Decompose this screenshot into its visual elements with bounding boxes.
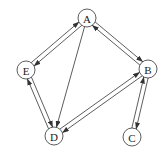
arrow-line <box>31 77 52 127</box>
edge-B-to-A <box>92 25 140 65</box>
edges-layer <box>27 22 148 133</box>
arrow-line <box>92 25 140 65</box>
node-label: E <box>23 65 30 77</box>
edge-B-to-D <box>62 76 142 133</box>
nodes-layer: ABCDE <box>17 9 157 146</box>
node-label: D <box>50 131 58 143</box>
edge-A-to-E <box>34 25 82 66</box>
directed-graph-diagram: ABCDE <box>0 0 166 156</box>
arrow-line <box>95 22 143 62</box>
arrow-line <box>60 72 140 129</box>
arrow-line <box>56 27 84 128</box>
arrow-line <box>34 25 82 66</box>
edge-D-to-B <box>60 72 140 129</box>
arrow-line <box>62 76 142 133</box>
node-label: B <box>144 64 151 76</box>
edge-E-to-D <box>31 77 52 127</box>
edge-D-to-E <box>27 79 48 129</box>
edge-A-to-D <box>56 27 84 128</box>
node-E: E <box>17 61 35 79</box>
node-B: B <box>139 60 157 78</box>
node-label: A <box>83 13 91 25</box>
edge-E-to-A <box>31 22 79 63</box>
arrow-line <box>27 79 48 129</box>
edge-A-to-B <box>95 22 143 62</box>
node-D: D <box>45 127 63 145</box>
node-C: C <box>123 128 141 146</box>
node-A: A <box>78 9 96 27</box>
node-label: C <box>128 132 135 144</box>
arrow-line <box>31 22 79 63</box>
